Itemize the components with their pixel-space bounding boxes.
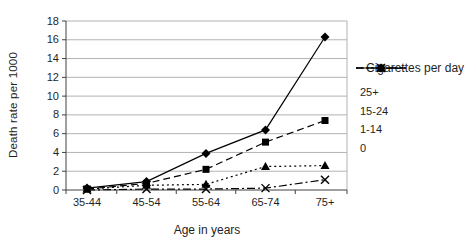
legend: Cigarettes per day 25+15-241-140 [355,61,464,157]
legend-label: 15-24 [360,105,388,117]
marker-triangle-icon [261,162,270,170]
legend-label: 1-14 [360,123,382,135]
marker-square-icon [262,139,269,146]
legend-item: 25+ [355,83,464,102]
marker-diamond-icon [202,149,211,158]
x-category-label: 65-74 [251,196,279,208]
legend-item: 15-24 [355,102,464,121]
marker-square-icon [203,166,210,173]
y-tick-label: 6 [53,127,59,139]
x-category-label: 75+ [316,196,335,208]
legend-label: 25+ [360,86,379,98]
legend-items: 25+15-241-140 [355,83,464,157]
y-tick-label: 8 [53,108,59,120]
y-tick-label: 18 [47,15,59,27]
legend-item: 0 [355,139,464,158]
y-tick-label: 14 [47,52,59,64]
legend-label: 0 [360,142,366,154]
marker-square-icon [322,117,329,124]
y-tick-label: 2 [53,165,59,177]
legend-item: 1-14 [355,120,464,139]
y-tick-label: 12 [47,71,59,83]
y-axis-title: Death rate per 1000 [7,52,19,158]
x-category-label: 45-54 [132,196,160,208]
marker-triangle-icon [321,161,330,169]
series-line-25- [87,37,325,188]
y-tick-label: 16 [47,33,59,45]
x-axis-title: Age in years [174,223,241,237]
x-category-label: 55-64 [192,196,220,208]
legend-swatch-x-icon [355,61,407,75]
x-category-label: 35-44 [73,196,101,208]
y-tick-label: 10 [47,90,59,102]
y-tick-label: 4 [53,146,59,158]
chart: 02468101214161835-4445-5455-6465-7475+ D… [0,0,467,248]
y-tick-label: 0 [53,184,59,196]
marker-diamond-icon [261,125,270,134]
